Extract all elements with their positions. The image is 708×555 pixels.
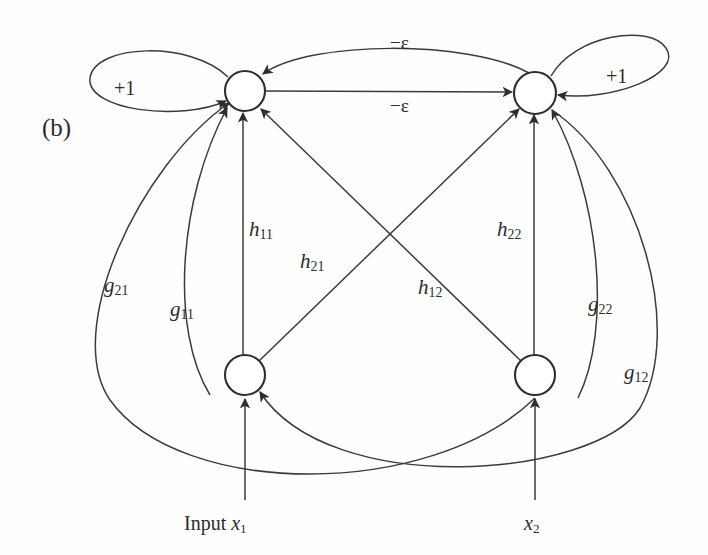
- weight-g11-base: g: [170, 297, 181, 321]
- output-neuron-1[interactable]: [225, 71, 265, 111]
- panel-label: (b): [42, 115, 71, 140]
- lateral-edge-top-label: −ε: [390, 33, 409, 52]
- input-label-x1-sub: 1: [240, 521, 247, 536]
- weight-g12-base: g: [624, 360, 635, 384]
- weight-g22-label: g22: [588, 294, 612, 317]
- input-label-x2-var: x: [524, 512, 533, 534]
- weight-g21-path: [95, 103, 535, 474]
- self-loop-left-label: +1: [114, 78, 135, 98]
- self-loop-right-label: +1: [606, 66, 627, 86]
- weight-h11-sub: 11: [260, 227, 273, 242]
- weight-h21-base: h: [300, 249, 311, 273]
- self-loop-left-path: [90, 51, 228, 112]
- input-label-x1: Input x1: [184, 513, 247, 536]
- weight-h11-base: h: [249, 217, 260, 241]
- output-neuron-2[interactable]: [514, 72, 556, 114]
- figure-canvas: (b) +1 +1 −ε −ε h11 h21 h12 h22 g21 g11 …: [0, 0, 708, 555]
- weight-h22-label: h22: [497, 219, 521, 242]
- input-neuron-1[interactable]: [225, 355, 265, 395]
- weight-h21-label: h21: [300, 251, 324, 274]
- weight-g21-base: g: [104, 273, 115, 297]
- weight-h12-label: h12: [418, 277, 442, 300]
- weight-h12-base: h: [418, 275, 429, 299]
- weight-g21-sub: 21: [115, 283, 129, 298]
- weight-g12-sub: 12: [635, 370, 649, 385]
- weight-g11-sub: 11: [181, 307, 194, 322]
- weight-g22-base: g: [588, 292, 599, 316]
- weight-g11-label: g11: [170, 299, 194, 322]
- input-label-x2: x2: [524, 513, 539, 536]
- lateral-edge-bottom-path: [266, 91, 512, 92]
- weight-h21-path: [259, 109, 519, 361]
- lateral-edge-bottom-label: −ε: [390, 96, 409, 115]
- input-label-x2-sub: 2: [533, 521, 540, 536]
- weight-g22-path: [552, 110, 597, 398]
- weight-g11-path: [184, 108, 227, 395]
- weight-g12-label: g12: [624, 362, 648, 385]
- weight-h21-sub: 21: [311, 259, 325, 274]
- weight-h22-base: h: [497, 217, 508, 241]
- weight-g21-label: g21: [104, 275, 128, 298]
- weight-h12-sub: 12: [429, 285, 443, 300]
- weight-h11-label: h11: [249, 219, 273, 242]
- weight-h12-path: [261, 109, 521, 361]
- weight-g22-sub: 22: [599, 302, 613, 317]
- input-label-x1-prefix: Input: [184, 512, 231, 534]
- input-neuron-2[interactable]: [515, 355, 555, 395]
- input-label-x1-var: x: [231, 512, 240, 534]
- weight-h22-sub: 22: [508, 227, 522, 242]
